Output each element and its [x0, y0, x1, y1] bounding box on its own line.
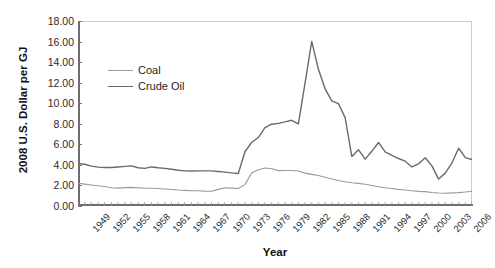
legend-label: Crude Oil [138, 80, 184, 92]
y-tick-mark [78, 144, 82, 145]
y-tick-mark [78, 103, 82, 104]
y-tick-label: 6.00 [30, 138, 74, 150]
chart-legend: CoalCrude Oil [108, 62, 218, 94]
y-tick-label: 12.00 [30, 77, 74, 89]
chart-figure: U.S. Coal and Crude Oil Prices 2008 U.S.… [0, 0, 495, 268]
chart-series-canvas [78, 21, 472, 206]
y-tick-label: 18.00 [30, 15, 74, 27]
x-tick-label: 1970 [230, 211, 252, 234]
y-tick-mark [78, 185, 82, 186]
x-tick-label: 1949 [90, 211, 112, 234]
x-tick-label: 1964 [190, 211, 212, 234]
x-tick-label: 1991 [370, 211, 392, 234]
y-tick-mark [78, 124, 82, 125]
x-tick-label: 1988 [350, 211, 372, 234]
x-tick-label: 1952 [110, 211, 132, 234]
x-axis-tick-labels: 1949195219551958196119641967197019731976… [0, 209, 495, 247]
x-tick-label: 1967 [210, 211, 232, 234]
y-tick-label: 10.00 [30, 97, 74, 109]
chart-title: U.S. Coal and Crude Oil Prices [0, 0, 495, 2]
series-line-coal [78, 168, 472, 193]
x-tick-label: 1982 [310, 211, 332, 234]
x-tick-label: 1961 [170, 211, 192, 234]
y-axis-tick-labels: 0.002.004.006.008.0010.0012.0014.0016.00… [26, 21, 74, 206]
x-tick-label: 2003 [451, 211, 473, 234]
x-tick-label: 1955 [130, 211, 152, 234]
y-tick-label: 4.00 [30, 159, 74, 171]
y-tick-label: 14.00 [30, 56, 74, 68]
y-tick-mark [78, 62, 82, 63]
y-tick-mark [78, 206, 82, 207]
x-tick-label: 2006 [471, 211, 493, 234]
x-tick-label: 1976 [270, 211, 292, 234]
x-axis-title: Year [78, 246, 472, 258]
y-tick-mark [78, 42, 82, 43]
legend-item-coal[interactable]: Coal [108, 62, 218, 78]
legend-item-crude-oil[interactable]: Crude Oil [108, 78, 218, 94]
y-tick-label: 2.00 [30, 179, 74, 191]
x-tick-label: 1979 [290, 211, 312, 234]
x-tick-label: 1958 [150, 211, 172, 234]
legend-line-swatch [108, 70, 133, 71]
y-tick-label: 8.00 [30, 118, 74, 130]
y-tick-mark [78, 21, 82, 22]
x-tick-label: 2000 [431, 211, 453, 234]
legend-label: Coal [138, 64, 161, 76]
x-tick-label: 1973 [250, 211, 272, 234]
y-tick-mark [78, 83, 82, 84]
x-tick-label: 1997 [411, 211, 433, 234]
y-tick-label: 16.00 [30, 36, 74, 48]
legend-line-swatch [108, 86, 133, 87]
x-tick-label: 1985 [330, 211, 352, 234]
x-tick-label: 1994 [390, 211, 412, 234]
y-tick-mark [78, 165, 82, 166]
